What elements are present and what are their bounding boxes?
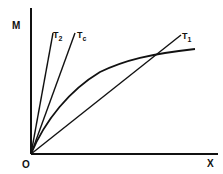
diagram-svg: M X O T2 Tc T1 — [0, 0, 223, 174]
y-axis-label: M — [12, 20, 20, 31]
tc-label: Tc — [77, 30, 87, 42]
t1-label: T1 — [182, 31, 192, 43]
line-t2 — [31, 33, 53, 154]
diagram-canvas: M X O T2 Tc T1 — [0, 0, 223, 174]
t2-label: T2 — [53, 30, 63, 42]
origin-label: O — [22, 159, 30, 170]
x-axis-label: X — [207, 158, 214, 169]
line-t1 — [31, 35, 181, 154]
magnetization-curve — [31, 49, 195, 154]
